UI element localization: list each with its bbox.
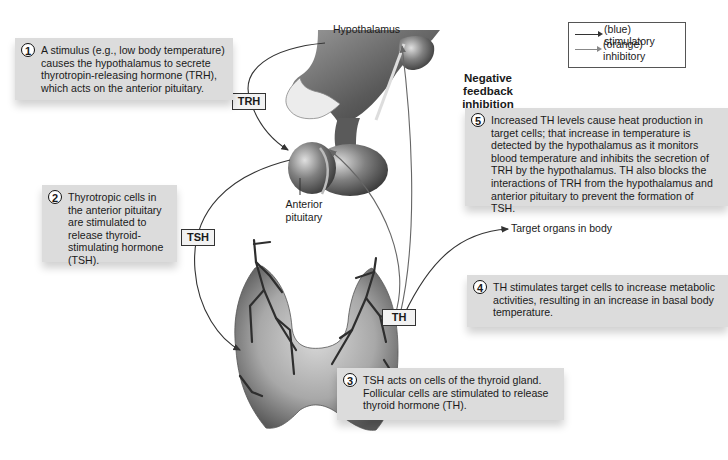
step-text: TH stimulates target cells to increase m… bbox=[475, 281, 720, 319]
step-3-callout: 3 TSH acts on cells of the thyroid gland… bbox=[337, 368, 564, 420]
anterior-pituitary-label: Anterior pituitary bbox=[283, 198, 325, 223]
legend-item-inhibitory: (orange) inhibitory bbox=[575, 42, 679, 57]
step-number-badge: 1 bbox=[21, 43, 35, 57]
stimulatory-arrow-icon bbox=[575, 34, 601, 35]
target-organs-label: Target organs in body bbox=[511, 222, 612, 235]
step-4-callout: 4 TH stimulates target cells to increase… bbox=[467, 275, 728, 327]
negative-feedback-label: Negative feedback inhibition bbox=[438, 72, 538, 111]
th-label: TH bbox=[382, 309, 416, 326]
step-number-badge: 5 bbox=[471, 113, 485, 127]
legend-label: (orange) inhibitory bbox=[603, 38, 679, 62]
step-text: Increased TH levels cause heat productio… bbox=[473, 114, 720, 215]
step-5-callout: 5 Increased TH levels cause heat product… bbox=[465, 108, 728, 206]
hypothalamus-illustration bbox=[286, 30, 440, 122]
tsh-label: TSH bbox=[181, 229, 215, 246]
legend: (blue) stimulatory (orange) inhibitory bbox=[568, 22, 686, 68]
step-number-badge: 3 bbox=[343, 373, 357, 387]
step-number-badge: 2 bbox=[48, 190, 62, 204]
hypothalamus-label: Hypothalamus bbox=[333, 23, 400, 36]
trh-label: TRH bbox=[232, 93, 266, 110]
step-text: TSH acts on cells of the thyroid gland. … bbox=[345, 374, 556, 412]
step-text: Thyrotropic cells in the anterior pituit… bbox=[50, 191, 169, 267]
inhibitory-arrow-icon bbox=[575, 49, 600, 50]
step-1-callout: 1 A stimulus (e.g., low body temperature… bbox=[15, 38, 233, 100]
step-text: A stimulus (e.g., low body temperature) … bbox=[23, 44, 225, 94]
step-number-badge: 4 bbox=[473, 280, 487, 294]
step-2-callout: 2 Thyrotropic cells in the anterior pitu… bbox=[42, 185, 177, 262]
